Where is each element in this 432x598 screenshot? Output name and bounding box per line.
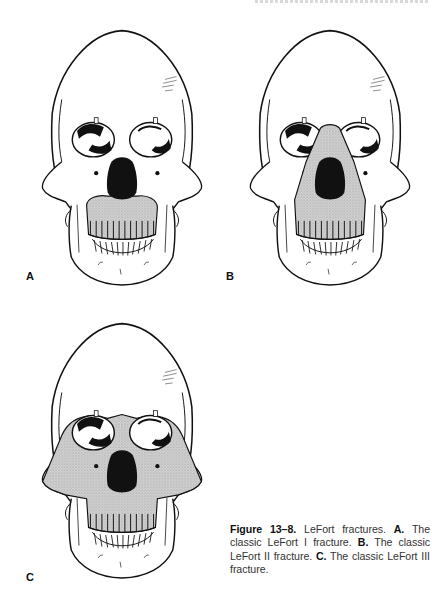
skull-lefort-3-illustration (12, 305, 232, 590)
figure-panel-c: C (12, 305, 232, 595)
panel-label-c: C (26, 571, 34, 583)
running-header-fragment (255, 0, 430, 3)
panel-label-a: A (26, 270, 34, 282)
figure-title: LeFort fractures. (296, 523, 394, 535)
figure-number: Figure 13–8. (230, 523, 296, 535)
figure-caption: Figure 13–8. LeFort fractures. A. The cl… (230, 523, 430, 577)
panel-label-b: B (226, 270, 234, 282)
caption-part-a-label: A. (394, 523, 405, 535)
skull-lefort-2-illustration (220, 12, 432, 297)
skull-lefort-1-illustration (12, 12, 232, 297)
caption-part-c-label: C. (316, 550, 327, 562)
caption-part-b-label: B. (358, 536, 369, 548)
figure-panel-b: B (220, 12, 432, 297)
figure-panel-a: A (12, 12, 232, 297)
